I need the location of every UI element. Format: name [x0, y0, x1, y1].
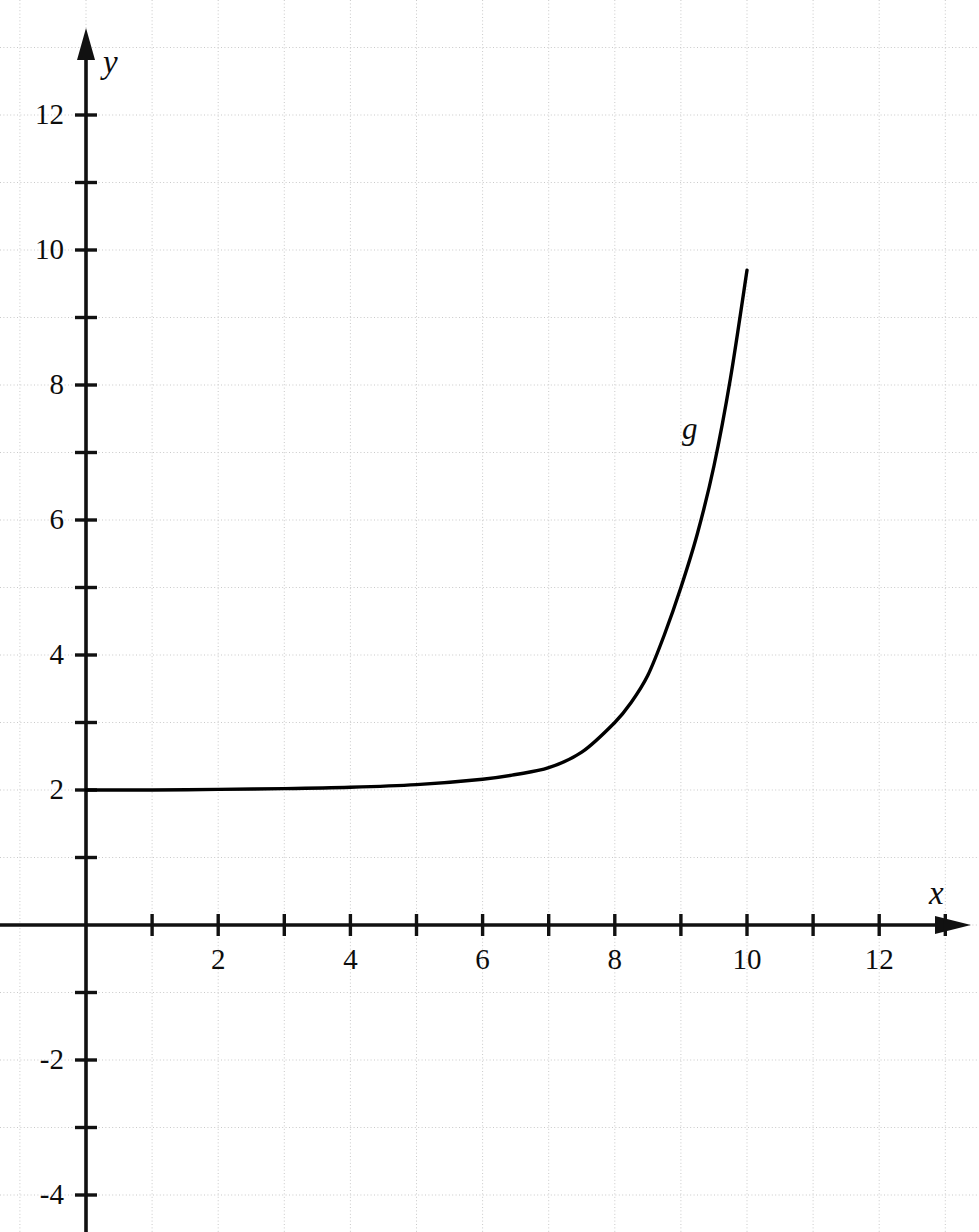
y-tick-label-8: 8: [50, 370, 65, 399]
x-tick-label-12: 12: [865, 945, 894, 974]
x-axis-label: x: [929, 877, 944, 910]
y-tick-label-12: 12: [35, 100, 64, 129]
y-tick-label-2: 2: [50, 775, 65, 804]
x-tick-label-10: 10: [733, 945, 762, 974]
y-axis-label: y: [103, 46, 118, 79]
y-tick-label-4: 4: [50, 640, 65, 669]
graph-figure: 2468101212108642-2-4 x y g: [0, 0, 979, 1232]
x-tick-label-4: 4: [343, 945, 358, 974]
x-tick-label-2: 2: [211, 945, 226, 974]
y-tick-label-neg4: -4: [40, 1180, 64, 1209]
y-tick-label-6: 6: [50, 505, 65, 534]
y-tick-label-10: 10: [35, 235, 64, 264]
axis-lines: [0, 28, 971, 1232]
x-tick-label-6: 6: [475, 945, 490, 974]
curve-g: [86, 270, 747, 790]
coordinate-plane-svg: [0, 0, 979, 1232]
y-tick-label-neg2: -2: [40, 1045, 64, 1074]
curve-label-g: g: [682, 413, 698, 444]
x-tick-label-8: 8: [608, 945, 623, 974]
grid-lines: [0, 0, 979, 1232]
